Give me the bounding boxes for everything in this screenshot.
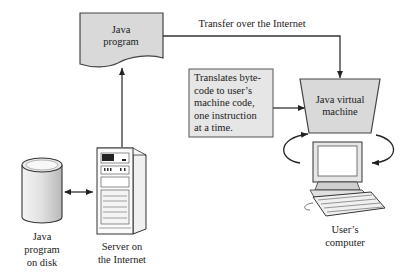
jvm-label: Java virtual machine [306,94,374,118]
java-program-label: Java program [88,24,154,48]
server-tower-icon [97,148,146,234]
user-computer-label: User’s computer [312,223,378,249]
cycle-arrow-left-icon [284,134,308,163]
disk-label: Java program on disk [12,230,72,269]
transfer-label: Transfer over the Internet [190,18,314,30]
server-label: Server on the Internet [84,240,160,266]
database-cylinder-icon [22,158,62,223]
desktop-computer-icon [305,142,385,216]
cycle-arrow-right-icon [372,135,394,163]
translate-note-text: Translates byte- code to user’s machine … [194,72,272,135]
